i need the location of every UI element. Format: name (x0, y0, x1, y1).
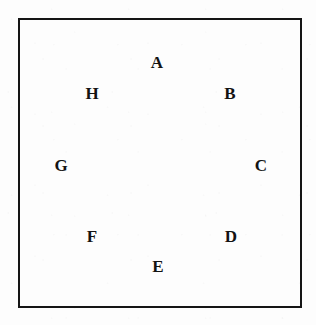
point-label-d: D (221, 228, 241, 245)
point-label-b: B (220, 85, 240, 102)
point-label-a: A (147, 54, 167, 71)
point-label-h: H (82, 85, 102, 102)
point-label-g: G (51, 157, 71, 174)
figure-canvas: A B C D E F G H (0, 0, 316, 325)
point-label-c: C (251, 157, 271, 174)
point-label-f: F (82, 228, 102, 245)
point-label-e: E (148, 258, 168, 275)
